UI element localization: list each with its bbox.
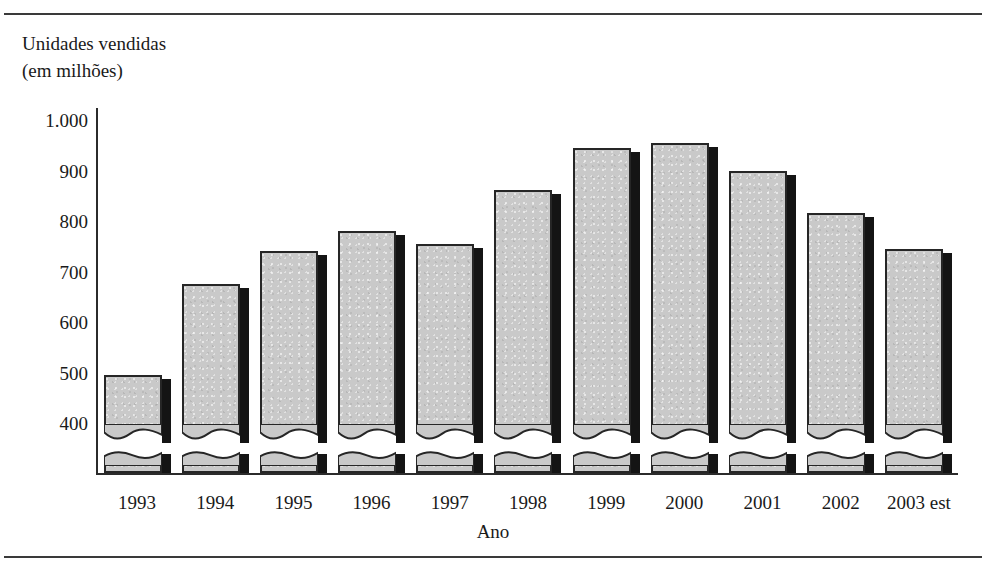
bar-series: 1993199419951996199719981999200020012002… — [98, 0, 958, 574]
bar-group[interactable]: 1998 — [489, 0, 567, 574]
bar-body[interactable] — [494, 190, 552, 425]
bar-break-upper-edge — [729, 424, 787, 442]
bar-body[interactable] — [651, 143, 709, 425]
bar-shadow — [865, 454, 874, 473]
bar-shadow — [865, 217, 874, 443]
bar-group[interactable]: 1997 — [411, 0, 489, 574]
bar-shadow — [943, 253, 952, 443]
bar-group[interactable]: 2003 est — [880, 0, 958, 574]
x-axis-title: Ano — [0, 521, 986, 543]
bar-group[interactable]: 1999 — [567, 0, 645, 574]
y-tick-label: 400 — [16, 414, 88, 433]
bar-break-upper-edge — [182, 424, 240, 442]
bar-group[interactable]: 1995 — [254, 0, 332, 574]
y-tick-label: 500 — [16, 363, 88, 382]
bar-shadow — [943, 454, 952, 473]
bar-break-upper-edge — [651, 424, 709, 442]
bar-stub — [494, 461, 552, 473]
x-tick-label: 2002 — [802, 492, 880, 514]
bar-body[interactable] — [260, 251, 318, 425]
bar-break-upper-edge — [416, 424, 474, 442]
bar-body[interactable] — [104, 375, 162, 425]
y-tick-label: 600 — [16, 313, 88, 332]
x-tick-label: 1998 — [489, 492, 567, 514]
bar-break-upper-edge — [573, 424, 631, 442]
bar-group[interactable]: 1994 — [176, 0, 254, 574]
bar-body[interactable] — [338, 231, 396, 425]
bar-shadow — [787, 175, 796, 444]
bar-shadow — [240, 454, 249, 473]
x-tick-label: 1994 — [176, 492, 254, 514]
y-tick-label: 800 — [16, 212, 88, 231]
bar-body[interactable] — [182, 284, 240, 425]
y-axis-tick-labels: 4005006007008009001.000 — [10, 0, 88, 574]
bar-shadow — [631, 152, 640, 443]
bar-shadow — [396, 454, 405, 473]
bar-shadow — [318, 454, 327, 473]
bar-shadow — [552, 194, 561, 443]
x-tick-label: 1999 — [567, 492, 645, 514]
bar-body[interactable] — [416, 244, 474, 425]
bar-stub — [104, 461, 162, 473]
bar-shadow — [162, 454, 171, 473]
x-tick-label: 2001 — [723, 492, 801, 514]
bar-stub — [182, 461, 240, 473]
bar-shadow — [474, 454, 483, 473]
bar-break-upper-edge — [885, 424, 943, 442]
x-tick-label: 1996 — [333, 492, 411, 514]
bar-shadow — [552, 454, 561, 473]
bar-body[interactable] — [729, 171, 787, 426]
bar-shadow — [396, 235, 405, 443]
y-tick-label: 1.000 — [16, 111, 88, 130]
x-tick-label: 2003 est — [880, 492, 958, 514]
bar-group[interactable]: 2001 — [723, 0, 801, 574]
x-tick-label: 1997 — [411, 492, 489, 514]
bar-shadow — [318, 255, 327, 443]
bar-group[interactable]: 2002 — [802, 0, 880, 574]
bar-break-upper-edge — [807, 424, 865, 442]
x-tick-label: 2000 — [645, 492, 723, 514]
chart-page: Unidades vendidas (em milhões) 400500600… — [0, 0, 986, 574]
bar-group[interactable]: 1993 — [98, 0, 176, 574]
bar-stub — [416, 461, 474, 473]
bar-shadow — [240, 288, 249, 443]
bar-stub — [885, 461, 943, 473]
bar-shadow — [787, 454, 796, 473]
bar-body[interactable] — [573, 148, 631, 425]
bar-break-upper-edge — [494, 424, 552, 442]
bar-body[interactable] — [807, 213, 865, 425]
bar-stub — [260, 461, 318, 473]
bar-break-upper-edge — [104, 424, 162, 442]
bar-group[interactable]: 1996 — [333, 0, 411, 574]
bar-stub — [729, 461, 787, 473]
bar-shadow — [162, 379, 171, 443]
bar-break-upper-edge — [338, 424, 396, 442]
bar-shadow — [709, 147, 718, 443]
bar-break-upper-edge — [260, 424, 318, 442]
x-tick-label: 1993 — [98, 492, 176, 514]
y-tick-label: 700 — [16, 262, 88, 281]
bar-shadow — [631, 454, 640, 473]
bar-stub — [651, 461, 709, 473]
y-tick-label: 900 — [16, 161, 88, 180]
bar-group[interactable]: 2000 — [645, 0, 723, 574]
bar-shadow — [709, 454, 718, 473]
bar-body[interactable] — [885, 249, 943, 425]
bar-stub — [573, 461, 631, 473]
x-tick-label: 1995 — [254, 492, 332, 514]
bar-stub — [338, 461, 396, 473]
bar-shadow — [474, 248, 483, 443]
bar-stub — [807, 461, 865, 473]
